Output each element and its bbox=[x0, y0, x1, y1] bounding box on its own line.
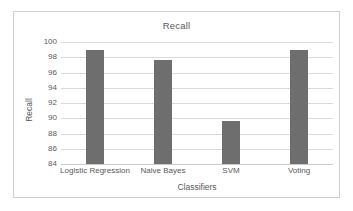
y-axis-tick-label: 94 bbox=[35, 84, 57, 92]
y-axis-tick-label: 96 bbox=[35, 69, 57, 77]
bar bbox=[154, 60, 172, 164]
x-axis-tick-label: SVM bbox=[222, 167, 239, 175]
x-axis-title: Classifiers bbox=[61, 182, 333, 192]
y-axis-tick-label: 92 bbox=[35, 99, 57, 107]
x-axis-tick-labels: Logistic RegressionNaive BayesSVMVoting bbox=[61, 167, 333, 181]
y-axis-tick-label: 88 bbox=[35, 130, 57, 138]
y-axis-title: Recall bbox=[22, 60, 36, 160]
y-axis-tick-label: 98 bbox=[35, 53, 57, 61]
x-axis-tick-label: Naive Bayes bbox=[141, 167, 186, 175]
x-axis-tick-label: Voting bbox=[288, 167, 310, 175]
y-axis-tick-label: 90 bbox=[35, 114, 57, 122]
y-axis-tick-label: 84 bbox=[35, 160, 57, 168]
chart-figure: Recall Recall 8486889092949698100 Logist… bbox=[13, 11, 340, 198]
x-axis-tick-label: Logistic Regression bbox=[60, 167, 130, 175]
y-axis-tick-label: 100 bbox=[35, 38, 57, 46]
y-axis-title-text: Recall bbox=[24, 98, 34, 122]
bar bbox=[290, 50, 308, 164]
bar bbox=[86, 50, 104, 164]
bar-series bbox=[61, 42, 333, 164]
gridline bbox=[61, 164, 333, 165]
bar bbox=[222, 121, 240, 164]
plot-area: 8486889092949698100 bbox=[61, 42, 333, 164]
y-axis-tick-label: 86 bbox=[35, 145, 57, 153]
chart-title: Recall bbox=[14, 20, 339, 31]
